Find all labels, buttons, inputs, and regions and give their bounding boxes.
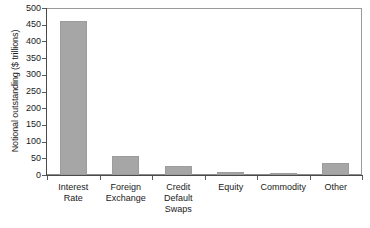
x-axis-tick-mark (362, 176, 363, 180)
y-axis-tick-label: 250 (14, 87, 41, 96)
x-axis-tick-mark (310, 176, 311, 180)
x-axis-category-label-line: Default (146, 193, 211, 204)
bar (322, 163, 349, 175)
bar (217, 172, 244, 175)
x-axis-category-label-line: Swaps (146, 204, 211, 215)
x-axis-tick-mark (152, 176, 153, 180)
y-axis-tick-labels: 050100150200250300350400450500 (14, 8, 41, 175)
y-axis-tick-label: 200 (14, 104, 41, 113)
y-axis-tick-label: 50 (14, 154, 41, 163)
bar-chart: Notional outstanding ($ trillions) 05010… (0, 0, 370, 228)
y-axis-tick-label: 400 (14, 37, 41, 46)
y-axis-tick-label: 500 (14, 4, 41, 13)
x-axis-tick-mark (47, 176, 48, 180)
x-axis-category-label-line: Other (304, 182, 369, 193)
y-axis-tick-label: 150 (14, 120, 41, 129)
x-axis-tick-mark (205, 176, 206, 180)
bar (60, 21, 87, 175)
bar (165, 166, 192, 175)
bars-group (47, 9, 362, 175)
y-axis-tick-label: 450 (14, 20, 41, 29)
x-axis-category-label: Other (304, 182, 369, 193)
y-axis-tick-label: 0 (14, 171, 41, 180)
bar (270, 173, 297, 175)
x-axis-tick-mark (100, 176, 101, 180)
y-axis-tick-label: 100 (14, 137, 41, 146)
x-axis-category-labels: InterestRateForeignExchangeCreditDefault… (47, 182, 362, 228)
y-axis-tick-label: 350 (14, 54, 41, 63)
bar (112, 156, 139, 175)
x-axis-tick-mark (257, 176, 258, 180)
y-axis-tick-label: 300 (14, 70, 41, 79)
